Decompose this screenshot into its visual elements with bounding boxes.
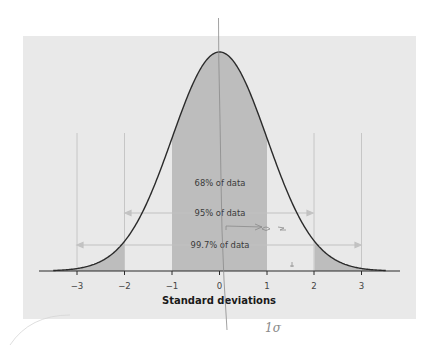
pencil-faint-arc [10, 315, 70, 345]
tick-label: −1 [166, 281, 179, 291]
tick-label: 2 [311, 281, 316, 291]
label-95-percent: 95% of data [195, 208, 246, 218]
tick-label: 3 [359, 281, 364, 291]
tick-label: −2 [118, 281, 131, 291]
tick-label: 0 [217, 281, 222, 291]
tick-label: 1 [264, 281, 269, 291]
normal-distribution-chart: 68% of data 95% of data 99.7% of data −3… [0, 0, 434, 351]
x-axis-title: Standard deviations [162, 295, 276, 306]
handwritten-one-sigma: 1σ [265, 321, 282, 335]
label-99-7-percent: 99.7% of data [191, 240, 250, 250]
label-68-percent: 68% of data [195, 178, 246, 188]
tick-label: −3 [71, 281, 84, 291]
